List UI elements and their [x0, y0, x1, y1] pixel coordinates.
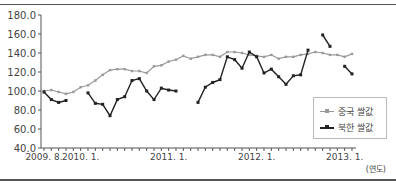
legend-nk-line-icon — [320, 127, 334, 129]
chart-legend: 중국 쌀값 북한 쌀값 — [313, 97, 387, 139]
svg-text:2012. 1.: 2012. 1. — [238, 152, 275, 162]
x-axis: 2009. 8.2010. 1.2011. 1.2012. 1.2013. 1. — [25, 148, 363, 162]
bottom-rule — [0, 179, 396, 181]
svg-text:140.0: 140.0 — [7, 48, 36, 59]
svg-text:60.0: 60.0 — [14, 124, 36, 135]
series-china — [43, 51, 353, 95]
svg-text:160.0: 160.0 — [7, 29, 36, 40]
legend-china-line-icon — [320, 111, 334, 112]
svg-text:2011. 1.: 2011. 1. — [150, 152, 187, 162]
line-chart: 180.0160.0140.0120.0100.080.060.040.0 20… — [0, 0, 396, 183]
svg-text:2013. 1.: 2013. 1. — [326, 152, 363, 162]
svg-text:180.0: 180.0 — [7, 10, 36, 21]
x-axis-unit-label: (연도) — [366, 163, 386, 174]
legend-item-china: 중국 쌀값 — [320, 105, 373, 118]
svg-text:2010. 1.: 2010. 1. — [62, 152, 99, 162]
svg-text:80.0: 80.0 — [14, 105, 36, 116]
legend-item-nk: 북한 쌀값 — [320, 121, 373, 134]
svg-text:120.0: 120.0 — [7, 67, 36, 78]
chart-series — [43, 33, 354, 117]
legend-china-label: 중국 쌀값 — [338, 105, 373, 118]
series-north-korea — [43, 33, 354, 117]
y-axis: 180.0160.0140.0120.0100.080.060.040.0 — [7, 10, 41, 154]
svg-text:100.0: 100.0 — [7, 86, 36, 97]
legend-nk-label: 북한 쌀값 — [338, 121, 373, 134]
svg-text:2009. 8.: 2009. 8. — [25, 152, 62, 162]
